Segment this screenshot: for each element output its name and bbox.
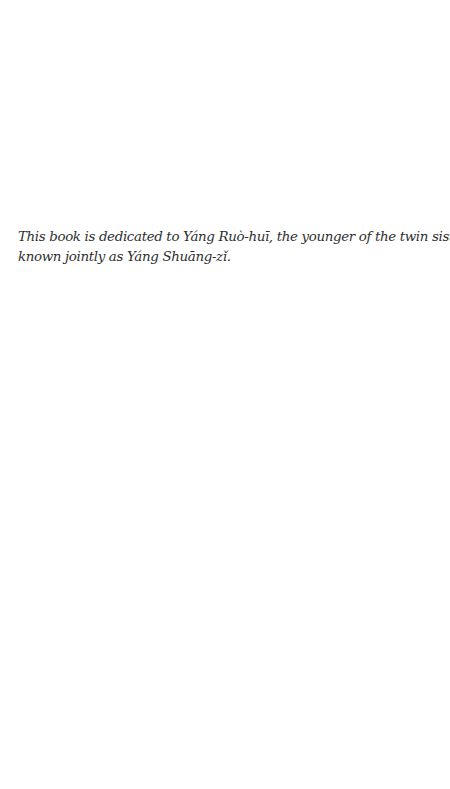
dedication-line-1: This book is dedicated to Yáng Ruò-huī, … bbox=[18, 227, 418, 247]
dedication-line-2: known jointly as Yáng Shuāng-zǐ. bbox=[18, 247, 418, 267]
dedication-text: This book is dedicated to Yáng Ruò-huī, … bbox=[18, 227, 418, 267]
book-page: This book is dedicated to Yáng Ruò-huī, … bbox=[0, 0, 450, 789]
